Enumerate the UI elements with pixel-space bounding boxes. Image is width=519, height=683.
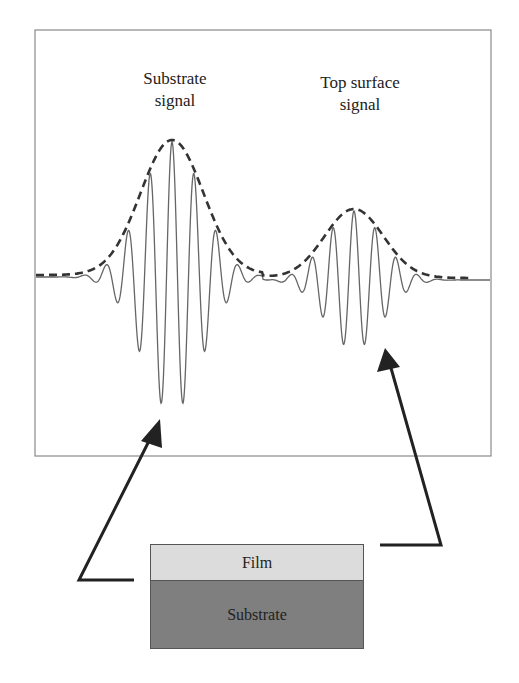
label-line: signal [100,90,250,112]
substrate-arrowhead-icon [141,419,162,448]
substrate-arrow-line [79,437,151,580]
film-label: Film [242,554,272,572]
substrate-layer: Substrate [150,581,364,649]
substrate-label: Substrate [227,606,287,624]
top-surface-arrowhead-icon [377,348,400,372]
label-line: Top surface [275,72,445,94]
label-line: Substrate [100,68,250,90]
film-layer: Film [150,544,364,581]
label-line: signal [275,94,445,116]
top-surface-signal-label: Top surface signal [275,72,445,116]
envelope-dashed-line [36,140,470,278]
substrate-signal-label: Substrate signal [100,68,250,112]
